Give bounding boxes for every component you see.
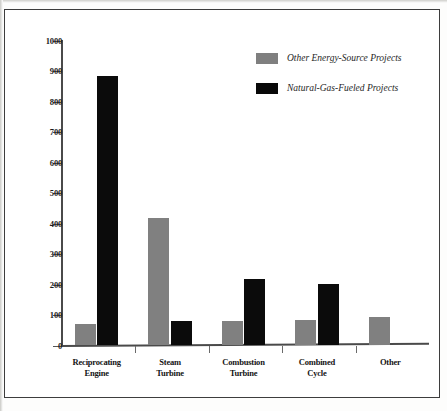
legend-label-natural-gas-fueled: Natural-Gas-Fueled Projects (287, 83, 398, 93)
y-axis-tick-label: 100 (20, 310, 62, 320)
y-axis-tick-label: 1000 (20, 36, 62, 46)
y-axis-tick-label-wrap: 100 (6, 310, 62, 320)
figure-page: 10009008007006005004003002001000 Recipro… (0, 0, 447, 411)
x-axis-tick-mark (209, 346, 210, 353)
bar (318, 284, 339, 346)
y-axis-tick-label-wrap: 500 (6, 188, 62, 198)
legend-item: Natural-Gas-Fueled Projects (256, 82, 431, 94)
chart-legend: Other Energy-Source Projects Natural-Gas… (256, 52, 431, 112)
x-axis-tick-mark (135, 346, 136, 353)
y-axis-tick-label: 500 (20, 188, 62, 198)
x-axis-tick-mark (356, 346, 357, 353)
bar (295, 320, 316, 346)
bar (222, 321, 243, 346)
y-axis-tick-label-wrap: 0 (6, 341, 62, 351)
y-axis-tick-label-wrap: 300 (6, 249, 62, 259)
bar (148, 218, 169, 346)
legend-item: Other Energy-Source Projects (256, 52, 431, 64)
bar (75, 324, 96, 345)
bar (171, 321, 192, 345)
bar (97, 76, 118, 345)
y-axis-tick-label-wrap: 700 (6, 127, 62, 137)
y-axis-tick-label: 0 (20, 341, 62, 351)
bar (244, 279, 265, 346)
y-axis-tick-label-wrap: 1000 (6, 36, 62, 46)
y-axis-tick-label: 700 (20, 127, 62, 137)
x-axis-category-label: Other (345, 357, 435, 368)
x-axis-category-label-line1: Other (345, 357, 435, 368)
y-axis-tick-label-wrap: 900 (6, 66, 62, 76)
y-axis-tick-label-wrap: 200 (6, 280, 62, 290)
x-axis-tick-mark (282, 346, 283, 353)
y-axis-tick-label: 400 (20, 219, 62, 229)
y-axis-tick-label: 800 (20, 97, 62, 107)
y-axis-tick-label: 300 (20, 249, 62, 259)
y-axis-tick-label-wrap: 600 (6, 158, 62, 168)
legend-swatch-other-energy-source (256, 53, 278, 64)
legend-swatch-natural-gas-fueled (256, 83, 278, 94)
bar-chart-plot-area: 10009008007006005004003002001000 Recipro… (0, 0, 447, 411)
y-axis-tick-label: 600 (20, 158, 62, 168)
y-axis-tick-label: 900 (20, 66, 62, 76)
y-axis-tick-label-wrap: 400 (6, 219, 62, 229)
legend-label-other-energy-source: Other Energy-Source Projects (287, 53, 402, 63)
y-axis-tick-label: 200 (20, 280, 62, 290)
y-axis-tick-label-wrap: 800 (6, 97, 62, 107)
x-axis-category-label-line2: Cycle (272, 368, 362, 379)
bar (369, 317, 390, 345)
